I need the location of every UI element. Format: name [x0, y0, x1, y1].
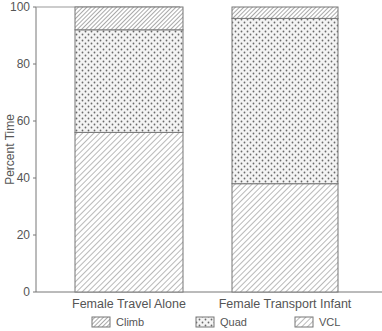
- bar-segment-climb: [232, 7, 338, 18]
- bar-1: Female Transport Infant: [219, 7, 352, 311]
- stacked-bar-chart: 020406080100Percent Time Female Travel A…: [0, 0, 382, 331]
- legend-item-vcl: VCL: [295, 316, 340, 328]
- legend-swatch: [295, 317, 313, 327]
- legend-label: Climb: [116, 316, 144, 328]
- legend-swatch: [196, 317, 214, 327]
- legend-label: Quad: [220, 316, 247, 328]
- bar-segment-climb: [75, 7, 183, 30]
- x-category-label: Female Travel Alone: [72, 297, 186, 311]
- bar-segment-vcl: [75, 132, 183, 292]
- x-category-label: Female Transport Infant: [219, 297, 352, 311]
- y-axis-label: Percent Time: [3, 114, 17, 185]
- legend: ClimbQuadVCL: [92, 316, 340, 328]
- bar-segment-quad: [232, 18, 338, 183]
- legend-item-quad: Quad: [196, 316, 247, 328]
- y-tick-label: 40: [17, 171, 31, 185]
- y-tick-label: 20: [17, 228, 31, 242]
- bars: Female Travel AloneFemale Transport Infa…: [72, 7, 352, 311]
- y-tick-label: 0: [23, 285, 30, 299]
- legend-swatch: [92, 317, 110, 327]
- bar-segment-vcl: [232, 184, 338, 292]
- y-tick-label: 60: [17, 114, 31, 128]
- legend-label: VCL: [319, 316, 340, 328]
- bar-segment-quad: [75, 30, 183, 133]
- y-tick-label: 80: [17, 57, 31, 71]
- legend-item-climb: Climb: [92, 316, 144, 328]
- bar-0: Female Travel Alone: [72, 7, 186, 311]
- y-tick-label: 100: [10, 0, 30, 14]
